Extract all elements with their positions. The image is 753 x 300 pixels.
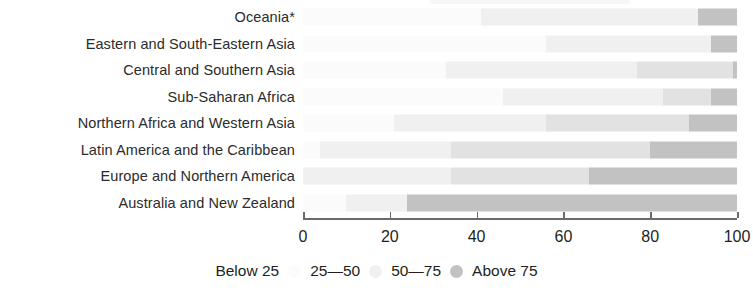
segment-below-25 xyxy=(303,62,446,79)
chart-row: Latin America and the Caribbean xyxy=(0,137,753,164)
category-label: Australia and New Zealand xyxy=(0,196,295,211)
chart-legend: Below 25 25—50 50—75 Above 75 xyxy=(0,262,753,280)
segment-below-25 xyxy=(303,194,346,211)
axis-tick xyxy=(563,212,565,218)
category-label: Europe and Northern America xyxy=(0,169,295,184)
category-label: Eastern and South-Eastern Asia xyxy=(0,37,295,52)
segment-25-50 xyxy=(303,168,451,185)
segment-below-25 xyxy=(303,115,394,132)
axis-tick xyxy=(737,212,739,218)
segment-25-50 xyxy=(481,9,698,26)
chart-row: Sub-Saharan Africa xyxy=(0,84,753,111)
chart-row: Central and Southern Asia xyxy=(0,57,753,84)
legend-item-above-75: Above 75 xyxy=(472,262,538,280)
segment-50-75 xyxy=(451,141,651,158)
x-axis: 0 20 40 60 80 100 xyxy=(303,218,737,220)
category-label: Sub-Saharan Africa xyxy=(0,90,295,105)
stacked-bar-chart: Oceania* Eastern and South-Eastern Asia … xyxy=(0,0,753,300)
segment-25-50 xyxy=(320,141,450,158)
segment-25-50 xyxy=(346,194,407,211)
legend-item-below-25: Below 25 xyxy=(215,262,279,280)
axis-tick-label: 0 xyxy=(299,228,308,246)
category-label: Oceania* xyxy=(0,10,295,25)
segment-above-75 xyxy=(711,88,737,105)
segment-above-75 xyxy=(733,62,737,79)
segment-below-25 xyxy=(303,88,503,105)
plot-area: Oceania* Eastern and South-Eastern Asia … xyxy=(0,4,753,216)
segment-above-75 xyxy=(650,141,737,158)
segment-below-25 xyxy=(303,35,546,52)
chart-row: Northern Africa and Western Asia xyxy=(0,110,753,137)
stacked-bar xyxy=(303,35,737,52)
stacked-bar xyxy=(303,9,737,26)
chart-row: Europe and Northern America xyxy=(0,163,753,190)
legend-swatch-icon xyxy=(450,265,463,278)
segment-25-50 xyxy=(394,115,546,132)
segment-above-75 xyxy=(589,168,737,185)
legend-label: Below 25 xyxy=(215,262,279,280)
stacked-bar xyxy=(303,168,737,185)
axis-tick xyxy=(477,212,479,218)
axis-tick xyxy=(303,212,305,218)
legend-item-25-50: 25—50 xyxy=(310,262,360,280)
legend-swatch-icon xyxy=(288,265,301,278)
legend-label: 25—50 xyxy=(310,262,360,280)
axis-tick-label: 40 xyxy=(468,228,486,246)
segment-25-50 xyxy=(546,35,711,52)
segment-25-50 xyxy=(503,88,664,105)
segment-below-25 xyxy=(303,9,481,26)
axis-tick-label: 20 xyxy=(381,228,399,246)
stacked-bar xyxy=(303,141,737,158)
axis-tick-label: 80 xyxy=(641,228,659,246)
category-label: Latin America and the Caribbean xyxy=(0,143,295,158)
segment-above-75 xyxy=(689,115,737,132)
stacked-bar xyxy=(303,62,737,79)
stacked-bar xyxy=(303,88,737,105)
chart-row: Oceania* xyxy=(0,4,753,31)
chart-row: Eastern and South-Eastern Asia xyxy=(0,31,753,58)
segment-above-75 xyxy=(711,35,737,52)
segment-50-75 xyxy=(546,115,689,132)
legend-item-50-75: 50—75 xyxy=(391,262,441,280)
axis-tick-label: 60 xyxy=(554,228,572,246)
segment-below-25 xyxy=(303,141,320,158)
category-label: Northern Africa and Western Asia xyxy=(0,116,295,131)
segment-25-50 xyxy=(446,62,637,79)
axis-tick xyxy=(390,212,392,218)
segment-above-75 xyxy=(698,9,737,26)
legend-label: Above 75 xyxy=(472,262,538,280)
category-label: Central and Southern Asia xyxy=(0,63,295,78)
legend-label: 50—75 xyxy=(391,262,441,280)
segment-50-75 xyxy=(637,62,732,79)
axis-tick xyxy=(650,212,652,218)
axis-tick-label: 100 xyxy=(724,228,751,246)
legend-swatch-icon xyxy=(369,265,382,278)
stacked-bar xyxy=(303,194,737,211)
stacked-bar xyxy=(303,115,737,132)
chart-row: Australia and New Zealand xyxy=(0,190,753,217)
segment-above-75 xyxy=(407,194,737,211)
segment-50-75 xyxy=(663,88,711,105)
segment-50-75 xyxy=(451,168,590,185)
